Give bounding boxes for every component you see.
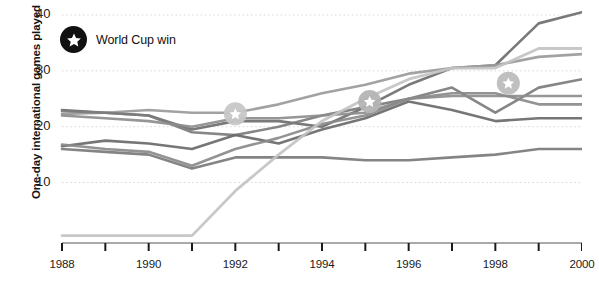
x-tick-label-1996: 1996 — [389, 258, 429, 270]
x-tick-label-1988: 1988 — [42, 258, 82, 270]
x-tick-label-2000: 2000 — [562, 258, 599, 270]
world-cup-marker-2[interactable] — [358, 90, 381, 113]
world-cup-star-icon — [60, 26, 87, 53]
legend: World Cup win — [60, 26, 176, 53]
x-tick-label-1990: 1990 — [129, 258, 169, 270]
y-tick-label-10: 10 — [36, 174, 62, 189]
y-tick-label-20: 20 — [36, 118, 62, 133]
y-tick-label-40: 40 — [36, 6, 62, 21]
world-cup-marker-3[interactable] — [497, 72, 520, 95]
x-tick-label-1994: 1994 — [302, 258, 342, 270]
y-tick-label-30: 30 — [36, 62, 62, 77]
x-tick-label-1998: 1998 — [475, 258, 515, 270]
x-tick-label-1992: 1992 — [215, 258, 255, 270]
world-cup-marker-1[interactable] — [224, 102, 247, 125]
legend-label: World Cup win — [96, 33, 176, 47]
